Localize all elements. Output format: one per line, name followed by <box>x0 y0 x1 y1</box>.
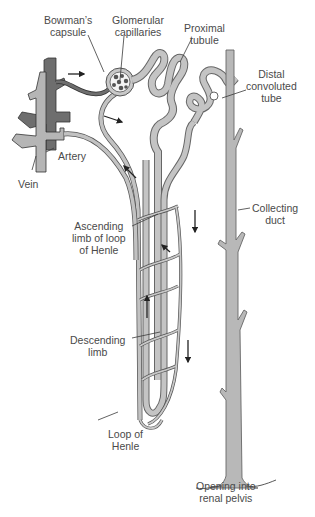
label-line: limb <box>70 346 125 358</box>
label-line: Ascending <box>72 220 126 232</box>
collecting-duct-shape <box>196 50 276 489</box>
label-line: Glomerular <box>112 14 164 26</box>
label-line: of Henle <box>72 244 126 256</box>
label-line: Distal <box>246 68 297 80</box>
label-ascending-limb: Ascending limb of loop of Henle <box>72 220 126 256</box>
efferent-flow-arrow <box>104 116 122 122</box>
label-descending-limb: Descending limb <box>70 334 125 358</box>
label-line: Vein <box>18 178 38 190</box>
label-distal-convoluted-tube: Distal convoluted tube <box>246 68 297 104</box>
label-line: Henle <box>108 440 143 452</box>
label-bowmans-capsule: Bowman’s capsule <box>44 14 92 38</box>
label-line: convoluted <box>246 80 297 92</box>
label-line: capsule <box>44 26 92 38</box>
label-line: Loop of <box>108 428 143 440</box>
flow-arrows <box>68 74 195 362</box>
label-line: capillaries <box>112 26 164 38</box>
label-line: Proximal <box>184 22 225 34</box>
label-line: Opening into <box>196 480 256 492</box>
label-collecting-duct: Collecting duct <box>252 202 298 226</box>
label-vein: Vein <box>18 178 38 190</box>
label-line: Descending <box>70 334 125 346</box>
label-artery: Artery <box>58 150 86 162</box>
label-line: renal pelvis <box>196 492 256 504</box>
label-line: Collecting <box>252 202 298 214</box>
label-renal-pelvis-opening: Opening into renal pelvis <box>196 480 256 504</box>
label-loop-of-henle: Loop of Henle <box>108 428 143 452</box>
nephron-diagram: Bowman’s capsule Glomerular capillaries … <box>0 0 315 517</box>
label-line: limb of loop <box>72 232 126 244</box>
label-glomerular-capillaries: Glomerular capillaries <box>112 14 164 38</box>
label-line: Bowman’s <box>44 14 92 26</box>
label-proximal-tubule: Proximal tubule <box>184 22 225 46</box>
label-line: duct <box>252 214 298 226</box>
label-line: Artery <box>58 150 86 162</box>
label-line: tubule <box>184 34 225 46</box>
label-line: tube <box>246 92 297 104</box>
